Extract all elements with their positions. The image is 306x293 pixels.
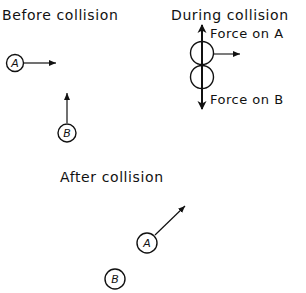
after-ball-b: B (105, 269, 125, 289)
during-collision-title: During collision (171, 7, 289, 23)
after-ball-b-label: B (111, 273, 119, 286)
ball-a-label: A (10, 57, 19, 70)
panel-during-collision: During collision Force on A Force on B (171, 7, 289, 109)
force-on-b-label: Force on B (210, 92, 284, 107)
before-collision-title: Before collision (2, 7, 118, 23)
force-on-a-label: Force on A (210, 26, 284, 41)
after-ball-a-velocity-arrow-icon (155, 206, 185, 235)
ball-b-label: B (63, 127, 71, 140)
panel-after-collision: After collision A B (60, 169, 185, 289)
before-ball-a: A (7, 55, 24, 72)
before-ball-b: B (58, 124, 76, 142)
after-ball-a: A (137, 233, 157, 253)
collision-diagram: Before collision A B During collision Fo… (0, 0, 306, 293)
panel-before-collision: Before collision A B (2, 7, 118, 142)
after-collision-title: After collision (60, 169, 164, 185)
after-ball-a-label: A (142, 237, 151, 250)
